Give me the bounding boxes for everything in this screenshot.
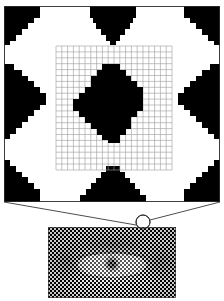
eye-halftone-overlay [48,227,176,298]
figure-canvas [0,0,224,301]
halftone-magnification-figure [0,0,224,301]
halftone-eye-photo [44,227,182,298]
magnified-halftone-patch [0,6,224,202]
